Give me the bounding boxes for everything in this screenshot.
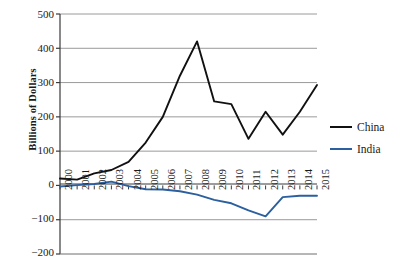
x-tick-label: 2000 — [64, 169, 75, 190]
legend-swatch-icon — [330, 126, 352, 128]
legend-label: India — [357, 143, 381, 155]
x-tick-label: 2004 — [133, 169, 144, 190]
x-tick-label: 2007 — [184, 169, 195, 190]
x-tick-label: 2001 — [81, 169, 92, 190]
chart-legend: China India — [330, 116, 404, 160]
x-tick-label: 2012 — [270, 169, 281, 190]
x-tick-label: 2015 — [321, 169, 332, 190]
x-tick-label: 2006 — [167, 169, 178, 190]
x-tick-label: 2014 — [304, 169, 315, 190]
x-tick-label: 2003 — [115, 169, 126, 190]
x-tick-label: 2013 — [287, 169, 298, 190]
legend-swatch-icon — [330, 148, 352, 150]
x-tick-label: 2011 — [252, 170, 263, 191]
x-tick-label: 2010 — [235, 169, 246, 190]
line-chart: Billions of Dollars 500 400 300 200 100 … — [0, 0, 404, 279]
x-tick-label: 2009 — [218, 169, 229, 190]
x-tick-label: 2002 — [98, 169, 109, 190]
legend-item-india: India — [330, 138, 404, 160]
x-tick-label: 2008 — [201, 169, 212, 190]
legend-label: China — [357, 121, 384, 133]
x-tick-label: 2005 — [150, 169, 161, 190]
legend-item-china: China — [330, 116, 404, 138]
